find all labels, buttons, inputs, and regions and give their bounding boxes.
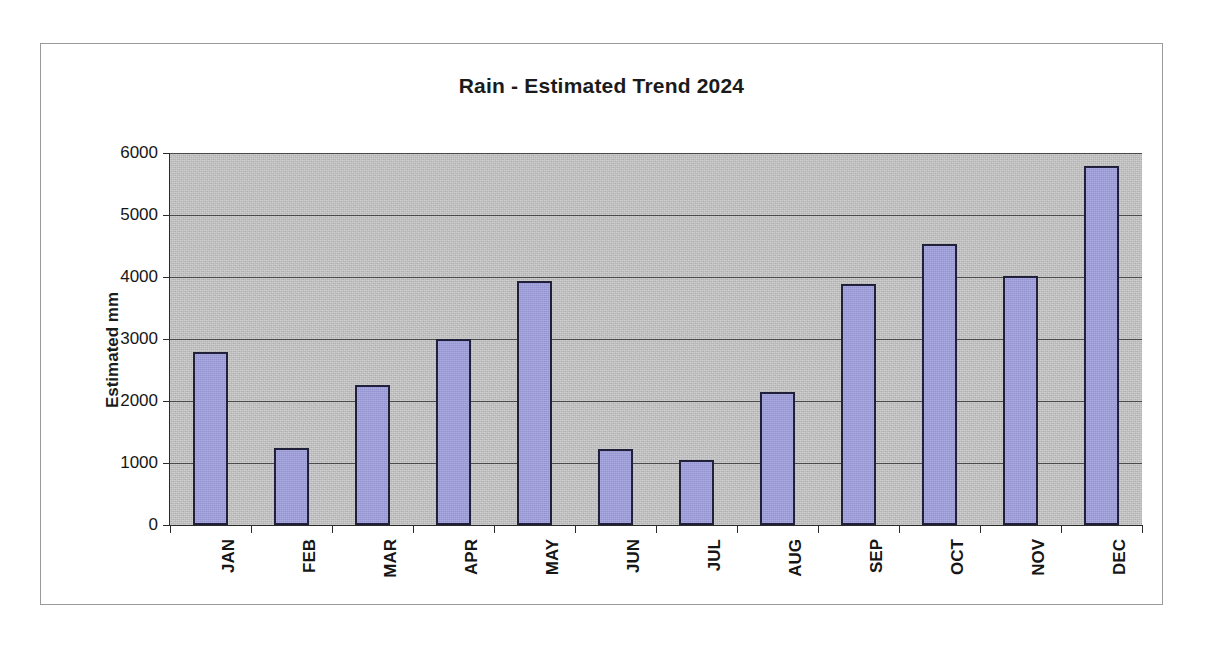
x-tick-mark xyxy=(413,525,414,533)
gridline xyxy=(170,339,1142,340)
y-tick-label: 0 xyxy=(149,515,158,535)
x-tick-label-oct: OCT xyxy=(948,539,968,575)
bar-apr xyxy=(436,339,471,525)
x-tick-mark xyxy=(575,525,576,533)
x-tick-mark xyxy=(332,525,333,533)
y-tick-label: 5000 xyxy=(120,205,158,225)
bar-texture-overlay xyxy=(276,450,307,524)
y-tick-label: 3000 xyxy=(120,329,158,349)
gridline xyxy=(170,153,1142,154)
bar-texture-overlay xyxy=(357,387,388,523)
chart-title: Rain - Estimated Trend 2024 xyxy=(41,74,1162,98)
x-tick-label-sep: SEP xyxy=(867,539,887,573)
gridline xyxy=(170,401,1142,402)
y-tick-label: 4000 xyxy=(120,267,158,287)
x-tick-label-may: MAY xyxy=(543,539,563,575)
gridline xyxy=(170,215,1142,216)
bar-aug xyxy=(760,392,795,525)
x-tick-label-jul: JUL xyxy=(705,539,725,571)
x-tick-label-feb: FEB xyxy=(300,539,320,573)
bar-texture-overlay xyxy=(681,462,712,523)
gridline xyxy=(170,277,1142,278)
bar-jun xyxy=(598,449,633,525)
y-tick-mark xyxy=(163,401,170,402)
x-tick-label-jun: JUN xyxy=(624,539,644,573)
x-tick-mark xyxy=(980,525,981,533)
bar-texture-overlay xyxy=(519,283,550,523)
x-tick-label-apr: APR xyxy=(462,539,482,575)
x-tick-mark xyxy=(1061,525,1062,533)
x-tick-label-nov: NOV xyxy=(1029,539,1049,576)
plot-area: 0100020003000400050006000 JANFEBMARAPRMA… xyxy=(169,153,1142,526)
bar-texture-overlay xyxy=(195,354,226,523)
bar-texture-overlay xyxy=(924,246,955,523)
chart-frame: Rain - Estimated Trend 2024 Estimated mm… xyxy=(40,43,1163,605)
bar-texture-overlay xyxy=(600,451,631,523)
y-tick-mark xyxy=(163,215,170,216)
y-tick-mark xyxy=(163,463,170,464)
x-tick-mark xyxy=(656,525,657,533)
x-tick-mark xyxy=(170,525,171,533)
y-tick-mark xyxy=(163,339,170,340)
y-tick-mark xyxy=(163,525,170,526)
bar-feb xyxy=(274,448,309,526)
bar-sep xyxy=(841,284,876,525)
bar-texture-overlay xyxy=(438,341,469,523)
bar-texture-overlay xyxy=(843,286,874,523)
bar-nov xyxy=(1003,276,1038,525)
y-tick-label: 2000 xyxy=(120,391,158,411)
x-tick-mark xyxy=(1142,525,1143,533)
bar-jul xyxy=(679,460,714,525)
x-tick-label-aug: AUG xyxy=(786,539,806,577)
bar-texture-overlay xyxy=(1005,278,1036,523)
x-tick-mark xyxy=(737,525,738,533)
bar-dec xyxy=(1084,166,1119,525)
y-tick-mark xyxy=(163,153,170,154)
y-tick-mark xyxy=(163,277,170,278)
x-tick-label-dec: DEC xyxy=(1110,539,1130,575)
x-tick-mark xyxy=(818,525,819,533)
bar-oct xyxy=(922,244,957,525)
x-tick-mark xyxy=(251,525,252,533)
y-tick-label: 1000 xyxy=(120,453,158,473)
bar-may xyxy=(517,281,552,525)
x-tick-mark xyxy=(494,525,495,533)
bar-texture-overlay xyxy=(762,394,793,523)
bar-texture-overlay xyxy=(1086,168,1117,523)
bar-mar xyxy=(355,385,390,525)
bar-jan xyxy=(193,352,228,525)
x-tick-label-jan: JAN xyxy=(219,539,239,573)
gridline xyxy=(170,463,1142,464)
x-tick-mark xyxy=(899,525,900,533)
y-tick-label: 6000 xyxy=(120,143,158,163)
x-tick-label-mar: MAR xyxy=(381,539,401,578)
